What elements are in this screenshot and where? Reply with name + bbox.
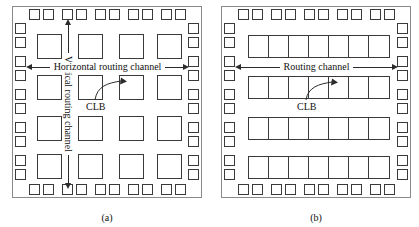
io-pad-bottom-b-1 [238,184,249,195]
clb-a-r3c4 [157,116,182,141]
io-pad-bottom-a-6 [109,184,120,195]
io-pad-left-b-8 [224,136,235,147]
io-pad-left-a-8 [15,136,26,147]
arrow-head-right-icon [392,64,398,70]
io-pad-top-a-1 [29,9,40,20]
io-pad-bottom-b-7 [337,184,348,195]
io-pad-bottom-a-1 [29,184,40,195]
clb-b-r1c7 [369,36,389,57]
panel-a-island-style-fpga: Vertical routing channel Horizontal rout… [12,6,202,198]
io-pad-right-b-6 [397,103,408,114]
io-pad-right-a-9 [188,155,199,166]
io-pad-bottom-a-10 [175,184,186,195]
clb-b-r1c3 [289,36,309,57]
clb-a-r3c1 [37,116,62,141]
io-pad-right-b-4 [397,70,408,81]
clb-b-r4c2 [269,157,289,178]
clb-b-r3c5 [329,118,349,139]
io-pad-left-b-9 [224,155,235,166]
clb-b-r3c1 [249,118,269,139]
io-pad-bottom-b-6 [318,184,329,195]
io-pad-left-a-5 [15,89,26,100]
io-pad-bottom-b-3 [271,184,282,195]
arrow-shaft-upper [68,25,69,53]
io-pad-bottom-a-9 [161,184,172,195]
io-pad-left-a-4 [15,70,26,81]
clb-a-r2c1 [37,75,62,100]
clb-b-r4c4 [309,157,329,178]
arrow-shaft-left [32,67,50,68]
clb-row-b-3 [248,117,390,140]
io-pad-top-b-8 [351,9,362,20]
io-pad-left-a-3 [15,56,26,67]
io-pad-bottom-b-10 [384,184,395,195]
clb-b-r2c6 [349,77,369,98]
io-pad-bottom-a-4 [76,184,87,195]
io-pad-left-b-7 [224,122,235,133]
arrow-shaft-lower [68,155,69,183]
io-pad-top-b-2 [252,9,263,20]
io-pad-top-a-8 [142,9,153,20]
clb-b-r2c7 [369,77,389,98]
io-pad-left-b-2 [224,37,235,48]
io-pad-right-b-2 [397,37,408,48]
clb-b-r1c1 [249,36,269,57]
io-pad-left-a-6 [15,103,26,114]
io-pad-right-b-5 [397,89,408,100]
io-pad-top-a-4 [76,9,87,20]
clb-a-r1c3 [119,34,144,59]
clb-b-r4c7 [369,157,389,178]
clb-a-r4c2 [78,154,103,179]
io-pad-bottom-b-2 [252,184,263,195]
io-pad-bottom-a-7 [128,184,139,195]
vertical-routing-channel-arrow-a: Vertical routing channel [62,19,74,189]
io-pad-bottom-b-8 [351,184,362,195]
figure-fpga-architectures: Vertical routing channel Horizontal rout… [0,0,419,227]
clb-b-r1c2 [269,36,289,57]
clb-b-r1c6 [349,36,369,57]
panel-caption-b: (b) [286,212,346,223]
io-pad-right-a-1 [188,23,199,34]
io-pad-right-a-3 [188,56,199,67]
clb-a-r3c2 [78,116,103,141]
io-pad-bottom-a-8 [142,184,153,195]
clb-a-r1c2 [78,34,103,59]
clb-b-r3c3 [289,118,309,139]
clb-a-r4c3 [119,154,144,179]
panel-caption-a: (a) [77,212,137,223]
io-pad-right-b-7 [397,122,408,133]
io-pad-bottom-b-5 [304,184,315,195]
clb-a-r3c3 [119,116,144,141]
horizontal-routing-channel-arrow-a: Horizontal routing channel [26,61,189,73]
arrow-head-right-icon [183,64,189,70]
io-pad-top-b-7 [337,9,348,20]
io-pad-right-a-6 [188,103,199,114]
io-pad-top-a-5 [95,9,106,20]
arrow-shaft-left [241,67,280,68]
io-pad-left-a-9 [15,155,26,166]
clb-label-b: CLB [297,102,316,112]
io-pad-top-b-10 [384,9,395,20]
clb-b-r4c5 [329,157,349,178]
io-pad-left-b-6 [224,103,235,114]
io-pad-top-b-1 [238,9,249,20]
clb-b-r3c4 [309,118,329,139]
horizontal-routing-channel-label: Horizontal routing channel [50,62,166,72]
io-pad-left-b-10 [224,169,235,180]
clb-b-r1c5 [329,36,349,57]
io-pad-bottom-b-4 [285,184,296,195]
clb-a-r4c1 [37,154,62,179]
clb-row-b-4 [248,156,390,179]
io-pad-top-a-2 [43,9,54,20]
clb-a-r1c1 [37,34,62,59]
clb-b-r4c1 [249,157,269,178]
io-pad-left-a-10 [15,169,26,180]
io-pad-top-a-10 [175,9,186,20]
io-pad-left-b-5 [224,89,235,100]
clb-b-r3c6 [349,118,369,139]
io-pad-bottom-a-2 [43,184,54,195]
io-pad-bottom-b-9 [370,184,381,195]
io-pad-left-a-1 [15,23,26,34]
panel-b-row-based-fpga: Routing channel CLB (b) [221,6,411,198]
io-pad-right-a-7 [188,122,199,133]
